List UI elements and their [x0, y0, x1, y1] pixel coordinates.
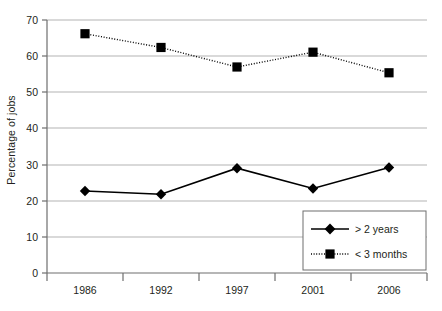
data-point-square	[232, 62, 241, 71]
x-tick-label-1992: 1992	[149, 284, 173, 296]
data-point-diamond	[384, 162, 394, 172]
data-point-diamond	[156, 189, 166, 199]
data-point-diamond	[80, 186, 90, 196]
y-tick-labels: 70 60 50 40 30 20 10 0	[26, 14, 38, 279]
x-axis	[47, 273, 427, 281]
x-tick-label-2001: 2001	[301, 284, 325, 296]
legend-label-gt-2-years: > 2 years	[355, 223, 398, 235]
series-layer	[80, 29, 394, 199]
data-point-square	[80, 29, 89, 38]
y-tick-label-30: 30	[26, 159, 38, 171]
y-tick-label-10: 10	[26, 231, 38, 243]
line-chart: Percentage of jobs 70 60	[0, 0, 442, 311]
y-tick-label-60: 60	[26, 50, 38, 62]
series-lt-3-months	[80, 29, 393, 77]
legend-box	[303, 211, 426, 270]
y-tick-label-20: 20	[26, 195, 38, 207]
data-point-square	[384, 68, 393, 77]
data-point-square	[156, 43, 165, 52]
gridlines	[47, 20, 427, 237]
series-gt-2-years	[80, 162, 394, 199]
y-tick-label-0: 0	[32, 267, 38, 279]
y-tick-label-70: 70	[26, 14, 38, 26]
x-tick-label-1997: 1997	[225, 284, 249, 296]
legend-label-lt-3-months: < 3 months	[355, 248, 407, 260]
x-tick-label-1986: 1986	[73, 284, 97, 296]
legend[interactable]: > 2 years < 3 months	[303, 211, 426, 270]
y-axis	[42, 20, 47, 273]
legend-item-lt-3-months[interactable]: < 3 months	[311, 248, 407, 260]
data-point-diamond	[308, 183, 318, 193]
y-tick-label-40: 40	[26, 122, 38, 134]
legend-marker-square	[325, 249, 334, 258]
data-point-square	[308, 48, 317, 57]
x-tick-labels: 1986 1992 1997 2001 2006	[73, 284, 401, 296]
plot-area: 70 60 50 40 30 20 10 0 1986 1992 1997 20…	[0, 0, 442, 311]
y-tick-label-50: 50	[26, 86, 38, 98]
x-tick-label-2006: 2006	[377, 284, 401, 296]
